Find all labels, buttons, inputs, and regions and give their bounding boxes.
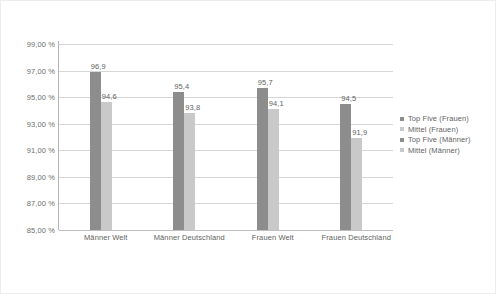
bar-group: 95,794,1 [257, 44, 279, 230]
bar-group: 96,994,6 [90, 44, 112, 230]
x-axis-tick-labels: Männer WeltMänner DeutschlandFrauen Welt… [59, 233, 393, 247]
legend-item-label: Mittel (Männer) [408, 146, 460, 155]
gridline [59, 230, 393, 231]
y-axis-tick-label: 97,00 % [3, 66, 55, 75]
x-axis-tick-label: Frauen Welt [252, 233, 294, 242]
legend-swatch-icon [400, 138, 404, 142]
bar-group: 94,591,9 [340, 44, 362, 230]
bar[interactable] [173, 92, 184, 230]
y-axis-tick-label: 85,00 % [3, 226, 55, 235]
legend-item-label: Top Five (Frauen) [408, 114, 469, 123]
chart-legend: Top Five (Frauen)Mittel (Frauen)Top Five… [400, 114, 494, 156]
legend-swatch-icon [400, 117, 404, 121]
legend-swatch-icon [400, 127, 404, 131]
bar[interactable] [257, 88, 268, 230]
bar-value-label: 94,1 [269, 99, 284, 108]
y-axis-tick-label: 95,00 % [3, 93, 55, 102]
bar[interactable] [101, 102, 112, 230]
bar-value-label: 95,7 [258, 78, 273, 87]
bar[interactable] [268, 109, 279, 230]
bar-value-label: 96,9 [91, 62, 106, 71]
bar-value-label: 94,6 [102, 92, 117, 101]
bar-value-label: 94,5 [341, 94, 356, 103]
bar-value-label: 91,9 [352, 128, 367, 137]
bar-group: 95,493,8 [173, 44, 195, 230]
bar-value-label: 93,8 [185, 103, 200, 112]
y-axis-tick-label: 91,00 % [3, 146, 55, 155]
bar[interactable] [184, 113, 195, 230]
bar[interactable] [340, 104, 351, 230]
y-axis-tick-label: 99,00 % [3, 40, 55, 49]
y-axis-tick-label: 89,00 % [3, 172, 55, 181]
legend-item[interactable]: Mittel (Männer) [400, 146, 494, 156]
y-axis-tick-labels: 99,00 %97,00 %95,00 %93,00 %91,00 %89,00… [1, 44, 55, 230]
y-axis-tick-label: 93,00 % [3, 119, 55, 128]
y-axis-tick-label: 87,00 % [3, 199, 55, 208]
x-axis-tick-label: Männer Deutschland [154, 233, 225, 242]
x-axis-tick-label: Männer Welt [84, 233, 127, 242]
bar[interactable] [351, 138, 362, 230]
chart-frame: 99,00 %97,00 %95,00 %93,00 %91,00 %89,00… [0, 0, 496, 294]
legend-item-label: Mittel (Frauen) [408, 125, 458, 134]
bar-value-label: 95,4 [174, 82, 189, 91]
bar[interactable] [90, 72, 101, 230]
x-axis-tick-label: Frauen Deutschland [322, 233, 391, 242]
plot-area: 96,994,695,493,895,794,194,591,9 [59, 44, 393, 230]
legend-item[interactable]: Top Five (Männer) [400, 135, 494, 145]
legend-item[interactable]: Top Five (Frauen) [400, 114, 494, 124]
legend-item[interactable]: Mittel (Frauen) [400, 125, 494, 135]
legend-item-label: Top Five (Männer) [408, 135, 471, 144]
legend-swatch-icon [400, 148, 404, 152]
